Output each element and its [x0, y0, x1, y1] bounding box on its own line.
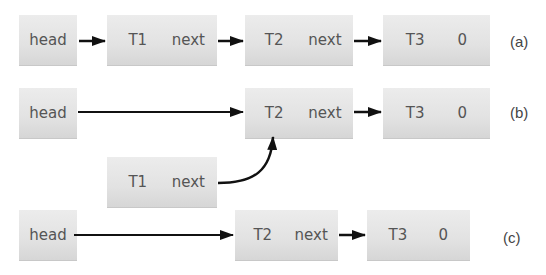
pointer-arrows [0, 0, 546, 275]
arrow-detached-t1-to-t2 [218, 137, 273, 183]
